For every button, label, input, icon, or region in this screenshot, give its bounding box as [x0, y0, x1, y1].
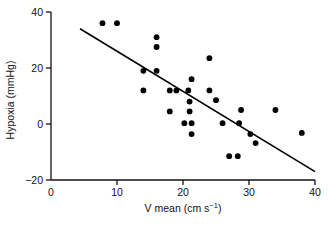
x-tick-label: 40: [309, 186, 321, 198]
data-point: [154, 68, 160, 74]
data-point: [189, 131, 195, 137]
x-tick-label: 20: [177, 186, 189, 198]
data-point: [167, 109, 173, 115]
y-tick-label: −20: [25, 174, 43, 186]
x-tick-label: 0: [48, 186, 54, 198]
y-tick-label: 40: [31, 6, 43, 18]
plot-canvas: −2002040 010203040 Hypoxia (mmHg) V mean…: [0, 0, 328, 227]
scatter-plot-figure: −2002040 010203040 Hypoxia (mmHg) V mean…: [0, 0, 328, 227]
data-point: [226, 153, 232, 159]
data-point: [154, 34, 160, 40]
x-axis-label-exponent: −1: [209, 201, 218, 210]
data-point: [187, 109, 193, 115]
axes: [51, 12, 315, 180]
data-point: [238, 107, 244, 113]
data-point: [299, 130, 305, 136]
data-point: [187, 99, 193, 105]
data-point: [273, 107, 279, 113]
y-axis-label: Hypoxia (mmHg): [4, 61, 16, 140]
x-axis-label: V mean (cm s−1): [145, 201, 222, 214]
x-tick-label: 10: [111, 186, 123, 198]
data-points: [100, 20, 305, 159]
y-tick-label: 20: [31, 62, 43, 74]
data-point: [207, 88, 213, 94]
data-point: [235, 153, 241, 159]
data-point: [189, 76, 195, 82]
x-axis-label-tail: ): [218, 202, 222, 214]
data-point: [253, 140, 259, 146]
x-tick-label: 30: [243, 186, 255, 198]
regression-line: [80, 29, 315, 172]
data-point: [114, 20, 120, 26]
data-point: [100, 20, 106, 26]
data-point: [207, 55, 213, 61]
data-point: [154, 44, 160, 50]
data-point: [213, 97, 219, 103]
regression-trend-line: [80, 29, 315, 172]
data-point: [189, 120, 195, 126]
data-point: [181, 120, 187, 126]
data-point: [220, 120, 226, 126]
y-axis-ticks: −2002040: [25, 6, 51, 186]
y-tick-label: 0: [37, 118, 43, 130]
data-point: [167, 88, 173, 94]
x-axis-ticks: 010203040: [48, 180, 321, 198]
x-axis-label-main: V mean (cm s: [145, 202, 210, 214]
data-point: [141, 88, 147, 94]
